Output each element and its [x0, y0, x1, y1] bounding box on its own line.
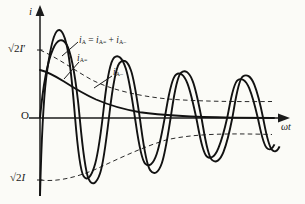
dc-i-subscript: A=: [80, 57, 88, 63]
origin-label: O: [21, 110, 29, 121]
current-symbol-lower: I: [22, 171, 26, 183]
plus-sign: +: [106, 35, 116, 45]
waveform-plot: [0, 0, 305, 204]
y-axis-label: i: [29, 6, 32, 17]
annotation-dc-component: iA=: [77, 54, 87, 64]
figure-container: i ωt O √2I′ √2I iA = iA= + iA– iA= iA–: [0, 0, 305, 204]
x-axis-label: ωt: [281, 122, 291, 132]
annotation-ac-component: iA–: [113, 68, 123, 78]
y-tick-label-upper: √2I′: [8, 43, 26, 54]
y-axis-arrowhead: [36, 5, 45, 16]
ac-i-subscript: A–: [116, 71, 123, 77]
y-tick-label-lower: √2I: [10, 172, 25, 183]
sqrt-two-prefix-lower: √2: [10, 171, 22, 183]
annotation-total-current: iA = iA= + iA–: [79, 36, 126, 46]
ac-component-curve: [40, 40, 280, 183]
sqrt-two-prefix-upper: √2: [8, 42, 20, 54]
x-axis-label-omega: ω: [281, 121, 288, 132]
x-axis-label-t: t: [288, 121, 291, 132]
equals-sign: =: [86, 35, 96, 45]
prime-mark-upper: ′: [23, 42, 25, 54]
ac-i-subscript-inline: A–: [119, 39, 126, 45]
